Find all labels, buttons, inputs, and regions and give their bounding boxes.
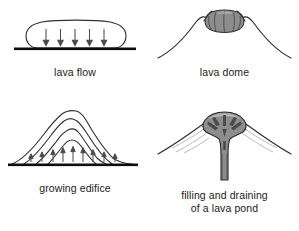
arrow-convergent — [223, 115, 226, 126]
lava-pond-diagram — [150, 96, 299, 186]
arrow-up — [29, 154, 33, 162]
panel-lava-flow: lava flow — [0, 2, 150, 88]
panel-caption-lava-pond: filling and draining of a lava pond — [150, 189, 299, 214]
arrow-up — [61, 148, 65, 162]
volcano-deformation-figure: lava flow lava dome — [0, 0, 299, 231]
panel-caption-lava-dome: lava dome — [150, 66, 299, 79]
panel-caption-lava-flow: lava flow — [0, 66, 150, 79]
ground-line — [14, 48, 136, 51]
lava-dome-diagram — [150, 2, 299, 60]
panel-growing-edifice: growing edifice — [0, 96, 150, 214]
panel-lava-dome: lava dome — [150, 2, 299, 88]
arrow-up — [81, 148, 85, 162]
panel-lava-pond: filling and draining of a lava pond — [150, 96, 299, 224]
panel-caption-growing-edifice: growing edifice — [0, 182, 150, 195]
arrow-up — [102, 152, 106, 162]
ground-line — [8, 164, 138, 167]
growing-edifice-diagram — [0, 96, 150, 178]
conduit-flow-arrow — [223, 141, 226, 150]
load-arrows-up — [29, 146, 117, 162]
arrow-up — [71, 146, 75, 162]
lava-flow-diagram — [0, 2, 150, 60]
